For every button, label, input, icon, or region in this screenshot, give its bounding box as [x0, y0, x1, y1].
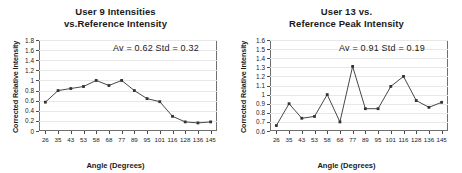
- y-axis-tick-label: 1.4: [235, 55, 265, 62]
- y-axis-tick-label: 1.2: [235, 73, 265, 80]
- x-axis-tick-mark: [416, 131, 417, 134]
- data-point-marker: [326, 93, 329, 96]
- x-axis-tick-mark: [391, 131, 392, 134]
- data-point-marker: [300, 117, 303, 120]
- y-axis-tick-label: 0: [4, 128, 34, 135]
- chart-title-line-1: User 9 Intensities: [0, 6, 231, 18]
- data-series: [270, 40, 448, 131]
- x-axis-tick-mark: [185, 131, 186, 134]
- y-axis-tick-label: 0.8: [4, 87, 34, 94]
- x-axis-tick-mark: [327, 131, 328, 134]
- x-axis-tick-mark: [404, 131, 405, 134]
- x-axis-tick-mark: [302, 131, 303, 134]
- y-axis-tick-label: 1.5: [235, 46, 265, 53]
- series-line: [45, 80, 210, 122]
- data-point-marker: [377, 107, 380, 110]
- y-axis-tick-label: 0.9: [235, 100, 265, 107]
- data-point-marker: [440, 101, 443, 104]
- data-point-marker: [95, 79, 98, 82]
- x-axis-label-user-13: Angle (Degrees): [231, 161, 462, 170]
- data-point-marker: [171, 115, 174, 118]
- x-axis-tick-mark: [122, 131, 123, 134]
- data-point-marker: [428, 106, 431, 109]
- data-point-marker: [351, 65, 354, 68]
- x-axis-tick-mark: [429, 131, 430, 134]
- x-axis-tick-mark: [84, 131, 85, 134]
- data-point-marker: [209, 121, 212, 124]
- y-axis-tick-label: 0.8: [235, 109, 265, 116]
- plot-area-user-13: 0.60.70.80.911.11.21.31.41.51.6263543535…: [270, 40, 448, 131]
- data-point-marker: [288, 102, 291, 105]
- chart-title-line-1: User 13 vs.: [231, 6, 462, 18]
- data-point-marker: [275, 124, 278, 127]
- y-axis-tick-label: 1.2: [4, 67, 34, 74]
- x-axis-tick-mark: [365, 131, 366, 134]
- y-axis-tick-mark: [267, 131, 270, 132]
- data-point-marker: [69, 87, 72, 90]
- data-point-marker: [389, 85, 392, 88]
- plot-area-user-9: 00.20.40.60.811.21.41.61.826354353586877…: [39, 40, 217, 131]
- y-axis-tick-label: 0.6: [4, 97, 34, 104]
- chart-panel-user-9: User 9 Intensities vs.Reference Intensit…: [0, 0, 231, 173]
- data-point-marker: [402, 75, 405, 78]
- data-point-marker: [82, 85, 85, 88]
- x-axis-tick-mark: [340, 131, 341, 134]
- data-point-marker: [44, 101, 47, 104]
- data-point-marker: [120, 79, 123, 82]
- x-axis-tick-mark: [147, 131, 148, 134]
- data-point-marker: [146, 97, 149, 100]
- data-point-marker: [108, 84, 111, 87]
- data-series: [39, 40, 217, 131]
- x-axis-tick-mark: [173, 131, 174, 134]
- x-axis-tick-mark: [134, 131, 135, 134]
- x-axis-tick-mark: [353, 131, 354, 134]
- chart-title-line-2: vs.Reference Intensity: [0, 18, 231, 30]
- y-axis-tick-label: 0.6: [235, 128, 265, 135]
- y-axis-tick-label: 1.6: [235, 37, 265, 44]
- chart-title-user-13: User 13 vs. Reference Peak Intensity: [231, 6, 462, 29]
- x-axis-tick-mark: [71, 131, 72, 134]
- x-axis-tick-mark: [276, 131, 277, 134]
- x-axis-tick-mark: [160, 131, 161, 134]
- y-axis-tick-label: 1.3: [235, 64, 265, 71]
- x-axis-tick-mark: [289, 131, 290, 134]
- data-point-marker: [197, 122, 200, 125]
- x-axis-tick-mark: [45, 131, 46, 134]
- x-axis-tick-label: 145: [202, 136, 220, 143]
- x-axis-tick-mark: [96, 131, 97, 134]
- y-axis-tick-label: 1.6: [4, 47, 34, 54]
- y-axis-tick-label: 0.7: [235, 118, 265, 125]
- data-point-marker: [184, 121, 187, 124]
- stats-annotation-user-13: Av = 0.91 Std = 0.19: [339, 43, 425, 53]
- chart-title-line-2: Reference Peak Intensity: [231, 18, 462, 30]
- data-point-marker: [313, 115, 316, 118]
- y-axis-tick-label: 0.2: [4, 117, 34, 124]
- x-axis-tick-mark: [315, 131, 316, 134]
- y-axis-tick-label: 1.1: [235, 82, 265, 89]
- x-axis-tick-label: 145: [433, 136, 451, 143]
- x-axis-tick-mark: [58, 131, 59, 134]
- data-point-marker: [364, 107, 367, 110]
- x-axis-label-user-9: Angle (Degrees): [0, 161, 231, 170]
- data-point-marker: [57, 89, 60, 92]
- chart-title-user-9: User 9 Intensities vs.Reference Intensit…: [0, 6, 231, 29]
- x-axis-tick-mark: [442, 131, 443, 134]
- chart-figure: User 9 Intensities vs.Reference Intensit…: [0, 0, 462, 173]
- y-axis-tick-label: 1: [235, 91, 265, 98]
- y-axis-tick-label: 0.4: [4, 107, 34, 114]
- x-axis-tick-mark: [211, 131, 212, 134]
- stats-annotation-user-9: Av = 0.62 Std = 0.32: [113, 43, 199, 53]
- x-axis-tick-mark: [198, 131, 199, 134]
- series-line: [276, 66, 441, 125]
- y-axis-tick-label: 1: [4, 77, 34, 84]
- chart-panel-user-13: User 13 vs. Reference Peak Intensity Cor…: [231, 0, 462, 173]
- data-point-marker: [133, 89, 136, 92]
- x-axis-tick-mark: [378, 131, 379, 134]
- x-axis-tick-mark: [109, 131, 110, 134]
- data-point-marker: [339, 121, 342, 124]
- y-axis-tick-label: 1.8: [4, 37, 34, 44]
- y-axis-tick-mark: [36, 131, 39, 132]
- data-point-marker: [415, 99, 418, 102]
- data-point-marker: [158, 100, 161, 103]
- y-axis-tick-label: 1.4: [4, 57, 34, 64]
